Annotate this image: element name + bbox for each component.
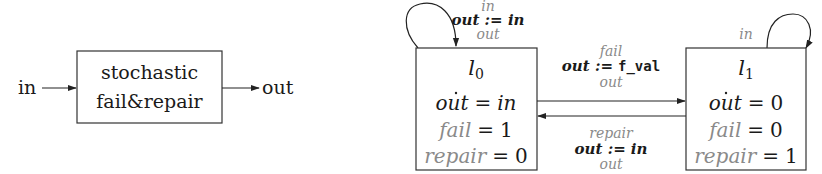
l0-loop-output: out — [476, 26, 499, 42]
l0-assignment-out: out=in — [435, 91, 516, 115]
automaton: in out := in out l0 out=in fail=1 repair… — [406, 0, 810, 172]
l0-self-loop-arrow-icon — [406, 3, 456, 48]
l0-self-loop-label: in out := in out — [452, 0, 525, 42]
fail-update: out :=f_val — [562, 57, 660, 75]
diagram-canvas: in stochastic fail&repair out in out := … — [0, 0, 822, 174]
l1-derivative-dot-icon — [725, 92, 727, 94]
repair-output: out — [599, 156, 622, 172]
transition-repair: repair out :=in out — [538, 116, 686, 172]
repair-input: repair — [589, 125, 634, 141]
input-label: in — [18, 76, 36, 98]
fail-output: out — [599, 74, 622, 90]
block-label-line-1: stochastic — [101, 61, 198, 83]
transition-fail: fail out :=f_val out — [537, 43, 685, 101]
output-label: out — [262, 76, 294, 98]
l0-derivative-dot-icon — [455, 92, 457, 94]
l1-self-loop-arrow-icon — [767, 14, 810, 48]
block-label-line-2: fail&repair — [96, 90, 203, 112]
block-diagram: in stochastic fail&repair out — [18, 51, 294, 123]
l1-loop-input: in — [739, 26, 753, 42]
